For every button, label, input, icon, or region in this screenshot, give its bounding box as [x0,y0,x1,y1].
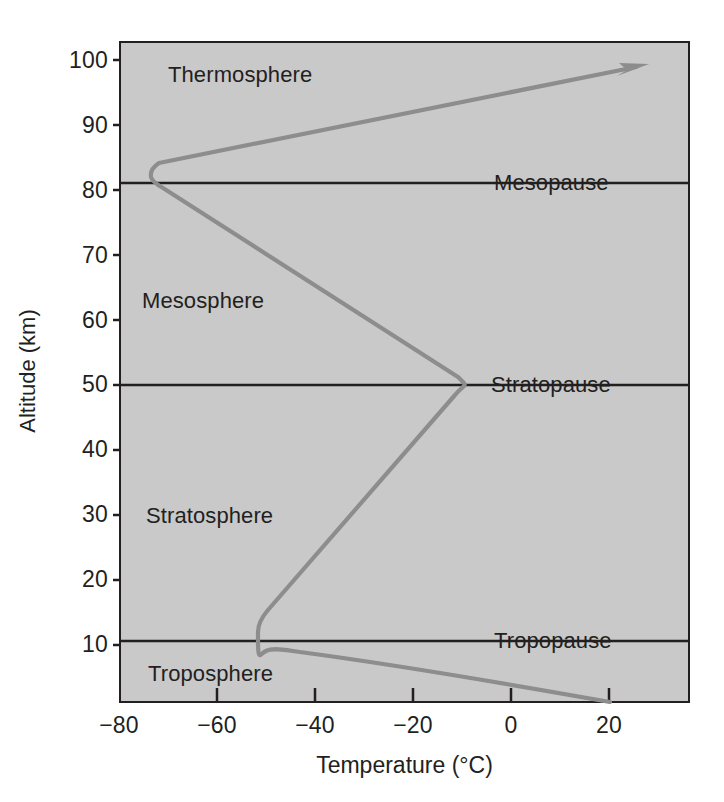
layer-label-troposphere: Troposphere [148,663,273,685]
x-axis-title: Temperature (°C) [119,752,690,779]
layer-label-thermosphere: Thermosphere [168,64,312,86]
x-tick-label-0: 0 [466,714,556,737]
x-tick-label-minus-20: −20 [368,714,458,737]
y-tick-label-90: 90 [48,114,108,137]
boundary-label-mesopause: Mesopause [487,172,616,194]
y-tick-label-70: 70 [48,244,108,267]
y-axis-title: Altitude (km) [15,281,41,461]
atmospheric-temperature-profile-figure: 100 90 80 70 60 50 40 30 20 10 −80 −60 −… [0,0,724,802]
y-tick-label-10: 10 [48,633,108,656]
layer-label-stratosphere: Stratosphere [146,505,273,527]
layer-label-mesosphere: Mesosphere [142,290,264,312]
x-tick-label-20: 20 [564,714,654,737]
y-tick-label-40: 40 [48,438,108,461]
boundary-label-stratopause: Stratopause [484,374,618,396]
y-tick-label-80: 80 [48,179,108,202]
boundary-label-tropopause: Tropopause [487,630,619,652]
y-tick-label-20: 20 [48,568,108,591]
y-tick-label-50: 50 [48,373,108,396]
x-tick-label-minus-40: −40 [270,714,360,737]
y-tick-label-30: 30 [48,503,108,526]
x-tick-label-minus-80: −80 [74,714,164,737]
x-tick-label-minus-60: −60 [172,714,262,737]
y-tick-label-100: 100 [48,49,108,72]
y-tick-label-60: 60 [48,309,108,332]
